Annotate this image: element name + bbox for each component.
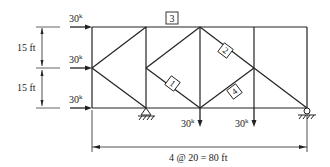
truss-diagram: 3 1 2 4 30k 30k 30k 30k 30k 15 ft 15 ft …: [0, 0, 330, 167]
height-label-lower: 15 ft: [17, 82, 36, 93]
load-label-top-left: 30k: [69, 12, 83, 24]
load-label-mid-left: 30k: [69, 53, 83, 65]
diagonal-member: [254, 68, 307, 108]
arrow-head-icon: [85, 106, 92, 111]
span-label: 4 @ 20 = 80 ft: [169, 152, 228, 163]
arrow-head-icon: [93, 145, 100, 149]
height-label-upper: 15 ft: [17, 42, 36, 53]
arrow-head-icon: [85, 66, 92, 71]
arrow-head-icon: [41, 70, 44, 76]
diagonal-member-4: [200, 68, 254, 108]
arrow-head-icon: [41, 60, 44, 66]
member-label-3: 3: [170, 13, 175, 24]
arrow-head-icon: [41, 28, 44, 34]
load-label-node-2: 30k: [181, 117, 195, 129]
load-label-node-3: 30k: [235, 117, 249, 129]
diagonal-member: [92, 68, 146, 108]
arrow-head-icon: [85, 25, 92, 30]
load-label-bottom-left: 30k: [69, 93, 83, 105]
arrow-head-icon: [198, 120, 203, 127]
arrow-head-icon: [299, 145, 306, 149]
arrow-head-icon: [252, 120, 257, 127]
arrow-head-icon: [41, 100, 44, 106]
diagonal-member: [92, 27, 146, 68]
diagonal-member: [146, 27, 200, 68]
pin-support-icon: [138, 108, 155, 120]
